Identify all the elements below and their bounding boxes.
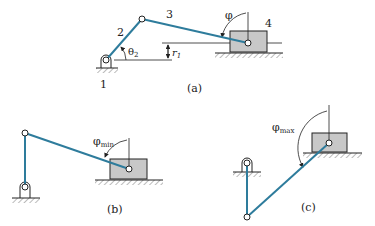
caption-c: (c) xyxy=(301,201,316,214)
label-phi-min: φmin xyxy=(93,135,115,149)
figure-b: φmin (b) xyxy=(12,130,163,216)
label-crank: 2 xyxy=(117,26,124,39)
figure-c: φmax (c) xyxy=(233,105,362,220)
label-r1: r1 xyxy=(172,47,181,60)
coupler-link-c xyxy=(247,143,329,217)
label-ground: 1 xyxy=(100,78,107,91)
label-coupler: 3 xyxy=(166,8,173,21)
caption-a: (a) xyxy=(187,82,202,95)
label-slider: 4 xyxy=(265,17,272,30)
label-phi-max: φmax xyxy=(272,121,295,135)
figure-a: 1 2 3 4 θ2 r1 φ (a) xyxy=(96,8,283,95)
caption-b: (b) xyxy=(107,203,123,216)
label-theta: θ2 xyxy=(128,46,139,59)
coupler-link-b xyxy=(25,133,129,169)
label-phi: φ xyxy=(225,9,233,22)
